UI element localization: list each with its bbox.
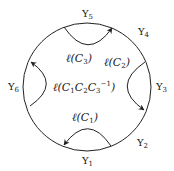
arc-c1c2c3inv (30, 62, 46, 106)
label-gamma3: Υ3 (155, 81, 167, 94)
label-ell-c2: ℓ(C2) (104, 56, 130, 70)
label-ell-c3: ℓ(C3) (66, 52, 92, 66)
label-gamma4: Υ4 (137, 26, 150, 39)
arc-c2 (127, 62, 145, 110)
label-gamma1: Υ1 (81, 155, 93, 168)
label-gamma5: Υ5 (81, 8, 93, 21)
arc-c1 (64, 129, 111, 146)
label-gamma6: Υ6 (7, 81, 20, 94)
diagram-canvas: Υ5 Υ4 Υ3 Υ2 Υ1 Υ6 ℓ(C3) ℓ(C2) ℓ(C1) ℓ(C1… (0, 0, 174, 171)
arc-c3 (64, 27, 112, 45)
label-gamma2: Υ2 (136, 137, 148, 150)
label-ell-center: ℓ(C1C2C3−1) (53, 80, 115, 95)
label-ell-c1: ℓ(C1) (72, 111, 98, 125)
